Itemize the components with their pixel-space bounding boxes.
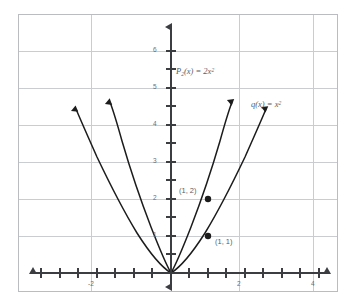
y-tick-label-4: 4	[153, 121, 157, 128]
y-tick-label-1: 1	[153, 232, 157, 239]
label-p2-function: P2(x) = 2x2	[176, 67, 214, 77]
x-tick-label-4: 4	[311, 281, 315, 288]
marker-point-1-1	[205, 233, 211, 239]
x-tick-label-2: 2	[237, 281, 241, 288]
x-tick-label-neg2: -2	[88, 281, 94, 288]
y-tick-label-6: 6	[153, 47, 157, 54]
plot-area: 6 5 4 3 2 1 -2 2 4 P2(x) = 2x2 q(x) = x2…	[18, 14, 338, 292]
marker-point-1-2	[205, 196, 211, 202]
axes-layer	[19, 15, 338, 292]
label-point-1-1: (1, 1)	[215, 238, 233, 246]
chart-screenshot: 6 5 4 3 2 1 -2 2 4 P2(x) = 2x2 q(x) = x2…	[0, 0, 354, 306]
y-tick-label-3: 3	[153, 158, 157, 165]
y-tick-label-5: 5	[153, 84, 157, 91]
y-tick-label-2: 2	[153, 195, 157, 202]
label-point-1-2: (1, 2)	[179, 187, 197, 195]
label-q-function: q(x) = x2	[251, 100, 281, 109]
